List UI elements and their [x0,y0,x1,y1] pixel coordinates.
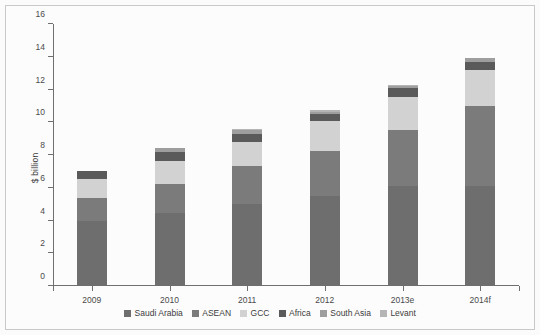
bar-segment[interactable] [388,97,418,131]
legend-label: Levant [390,308,416,318]
x-tick-mark [325,286,326,291]
x-tick-label: 2012 [315,295,334,305]
y-tick-label: 8 [40,140,45,150]
x-tick-mark [519,286,520,291]
legend-swatch-icon [240,310,247,317]
bar-segment[interactable] [388,130,418,186]
y-tick-label: 12 [36,75,45,85]
y-tick-label: 2 [40,238,45,248]
x-tick-mark [480,286,481,291]
legend-label: Saudi Arabia [135,308,183,318]
x-tick-mark [247,286,248,291]
bar-series-container: 20092010201120122013e2014f [53,24,519,286]
y-tick-label: 0 [40,271,45,281]
bar-segment[interactable] [465,186,495,286]
x-tick-mark [403,286,404,291]
legend-item[interactable]: Levant [380,308,416,318]
legend-item[interactable]: South Asia [320,308,371,318]
legend-item[interactable]: ASEAN [192,308,231,318]
legend-swatch-icon [124,310,131,317]
legend-swatch-icon [279,310,286,317]
bar-segment[interactable] [77,171,107,178]
legend-label: ASEAN [202,308,231,318]
plot-area: 0246810121416 20092010201120122013e2014f [53,24,519,286]
bar-group[interactable] [310,110,340,286]
bar-segment[interactable] [232,204,262,286]
chart-frame: $ billion 0246810121416 2009201020112012… [5,5,535,330]
legend-item[interactable]: Saudi Arabia [124,308,183,318]
x-tick-label: 2009 [82,295,101,305]
y-tick-label: 16 [36,9,45,19]
bar-segment[interactable] [388,88,418,97]
legend-item[interactable]: GCC [240,308,269,318]
bar-segment[interactable] [155,161,185,185]
bar-group[interactable] [155,148,185,286]
y-tick-label: 10 [36,107,45,117]
x-tick-mark [92,286,93,291]
bar-segment[interactable] [232,134,262,142]
chart-root: $ billion 0246810121416 2009201020112012… [0,0,540,335]
bar-segment[interactable] [77,221,107,286]
bar-segment[interactable] [155,152,185,161]
bar-group[interactable] [77,171,107,286]
bar-segment[interactable] [310,121,340,151]
x-tick-mark [53,286,54,291]
bar-segment[interactable] [465,70,495,106]
bar-group[interactable] [388,85,418,286]
y-tick-label: 6 [40,173,45,183]
x-tick-mark [170,286,171,291]
bar-segment[interactable] [310,151,340,196]
bar-segment[interactable] [232,166,262,204]
legend-swatch-icon [380,310,387,317]
legend-item[interactable]: Africa [279,308,311,318]
legend-label: GCC [251,308,270,318]
bar-group[interactable] [232,129,262,286]
bar-segment[interactable] [77,179,107,198]
bar-segment[interactable] [465,62,495,70]
bar-segment[interactable] [77,198,107,222]
y-tick-label: 14 [36,42,45,52]
y-tick-label: 4 [40,206,45,216]
bar-segment[interactable] [310,196,340,286]
bar-segment[interactable] [388,186,418,286]
legend-label: Africa [289,308,311,318]
bar-segment[interactable] [465,106,495,186]
bar-segment[interactable] [155,184,185,213]
x-tick-label: 2010 [160,295,179,305]
x-tick-label: 2013e [391,295,415,305]
bar-segment[interactable] [155,213,185,286]
x-tick-label: 2011 [238,295,256,305]
bar-segment[interactable] [232,142,262,167]
legend-swatch-icon [320,310,327,317]
x-tick-label: 2014f [470,295,491,305]
chart-legend: Saudi ArabiaASEANGCCAfricaSouth AsiaLeva… [6,308,534,318]
legend-swatch-icon [192,310,199,317]
y-axis-label: $ billion [30,152,40,183]
bar-group[interactable] [465,58,495,286]
legend-label: South Asia [330,308,371,318]
